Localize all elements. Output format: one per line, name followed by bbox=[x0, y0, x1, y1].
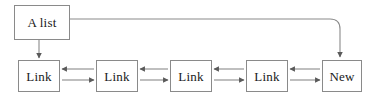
connector-head-to-new bbox=[70, 19, 340, 57]
list-node-label: Link bbox=[26, 69, 51, 82]
list-node-label: Link bbox=[254, 69, 279, 82]
connector-link2-link3 bbox=[140, 69, 168, 80]
list-node-1: Link bbox=[18, 60, 60, 92]
linked-list-diagram: A list Link Link Link Link New bbox=[0, 0, 372, 99]
new-node: New bbox=[322, 60, 362, 92]
head-node-a-list: A list bbox=[14, 5, 70, 40]
list-node-label: Link bbox=[178, 69, 203, 82]
list-node-3: Link bbox=[170, 60, 212, 92]
connector-link4-new bbox=[290, 69, 320, 80]
list-node-4: Link bbox=[246, 60, 288, 92]
new-node-label: New bbox=[329, 69, 354, 82]
connector-link1-link2 bbox=[62, 69, 94, 80]
list-node-label: Link bbox=[104, 69, 129, 82]
head-node-label: A list bbox=[27, 16, 56, 29]
connector-link3-link4 bbox=[214, 69, 244, 80]
list-node-2: Link bbox=[96, 60, 138, 92]
